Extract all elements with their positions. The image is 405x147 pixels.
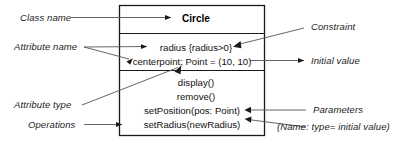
annotation-attribute-name: Attribute name [14, 42, 77, 52]
annotation-initial-value: Initial value [311, 56, 360, 66]
class-box-outline [120, 6, 265, 136]
attribute-row-centerpoint: centerpoint; Point = (10, 10) [133, 57, 252, 67]
annotation-parameters-note: (Name: type= initial value) [277, 122, 390, 132]
operation-row-remove: remove() [177, 92, 215, 102]
annotation-attribute-type: Attribute type [14, 100, 71, 110]
operation-row-setradius: setRadius(newRadius) [144, 120, 241, 130]
operation-row-display: display() [178, 78, 214, 88]
uml-class-diagram: Circle radius {radius>0} centerpoint; Po… [0, 0, 405, 147]
class-name-text: Circle [182, 14, 210, 24]
annotation-operations: Operations [28, 120, 75, 130]
annotation-parameters: Parameters [313, 105, 363, 115]
attribute-row-radius: radius {radius>0} [160, 43, 232, 53]
annotation-class-name: Class name [20, 13, 71, 23]
annotation-constraint: Constraint [311, 22, 355, 32]
operation-row-setposition: setPosition(pos: Point) [144, 106, 240, 116]
